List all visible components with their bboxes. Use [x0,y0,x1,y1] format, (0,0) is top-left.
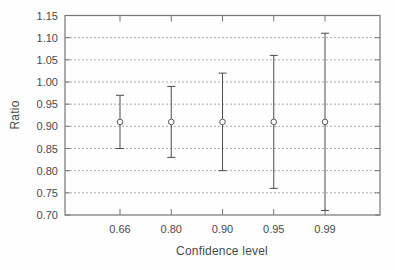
y-tick-label: 0.90 [37,120,58,132]
x-tick-label: 0.80 [161,223,182,235]
y-axis-title: Ratio [8,100,22,129]
x-tick-label: 0.99 [314,223,335,235]
errorbar-chart-figure: 0.700.750.800.850.900.951.001.051.101.15… [0,0,395,270]
y-tick-label: 1.00 [37,76,58,88]
y-tick-label: 1.05 [37,54,58,66]
x-axis-title: Confidence level [176,244,268,258]
data-point-marker [322,119,328,125]
y-tick-label: 1.15 [37,10,58,22]
y-tick-label: 1.10 [37,32,58,44]
y-tick-label: 0.75 [37,187,58,199]
x-tick-label: 0.95 [263,223,284,235]
y-tick-label: 0.85 [37,143,58,155]
y-tick-label: 0.95 [37,98,58,110]
data-point-marker [271,119,277,125]
data-point-marker [117,119,123,125]
data-point-marker [168,119,174,125]
x-tick-label: 0.66 [109,223,130,235]
y-tick-label: 0.70 [37,209,58,221]
x-tick-label: 0.90 [212,223,233,235]
y-tick-label: 0.80 [37,165,58,177]
data-point-marker [220,119,226,125]
chart-canvas: 0.700.750.800.850.900.951.001.051.101.15… [0,0,395,270]
